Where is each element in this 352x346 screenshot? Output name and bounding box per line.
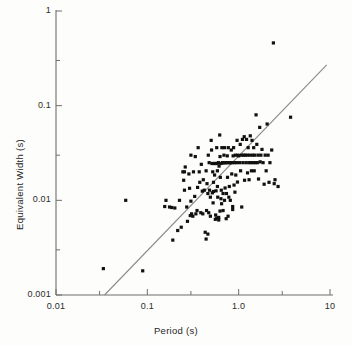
y-tick-label: 0.1: [16, 100, 51, 110]
data-point: [266, 122, 269, 125]
data-point: [215, 146, 218, 149]
data-point: [205, 182, 208, 185]
data-point: [267, 181, 270, 184]
data-point: [229, 199, 232, 202]
data-point: [256, 161, 259, 164]
data-point: [250, 169, 253, 172]
y-axis-title: Equivalent Width (s): [14, 139, 25, 230]
scatter-plot-figure: 0.010.11.01010.10.010.001 Period (s) Equ…: [0, 0, 352, 346]
data-point: [232, 183, 235, 186]
data-point: [270, 148, 273, 151]
data-point: [218, 209, 221, 212]
data-point: [141, 269, 144, 272]
data-point: [210, 139, 213, 142]
data-point: [268, 161, 271, 164]
data-point: [219, 197, 222, 200]
data-point: [201, 212, 204, 215]
data-point: [261, 161, 264, 164]
data-point: [220, 189, 223, 192]
data-point: [184, 165, 187, 168]
data-point: [235, 139, 238, 142]
data-point: [273, 182, 276, 185]
data-point: [246, 171, 249, 174]
data-point: [192, 170, 195, 173]
data-point: [195, 209, 198, 212]
data-point: [171, 239, 174, 242]
data-point: [212, 181, 215, 184]
data-point: [255, 143, 258, 146]
data-point: [202, 178, 205, 181]
data-point: [239, 143, 242, 146]
data-point: [198, 170, 201, 173]
data-point: [194, 155, 197, 158]
data-point: [244, 161, 247, 164]
data-point: [231, 208, 234, 211]
data-point: [265, 169, 268, 172]
data-point: [205, 169, 208, 172]
data-point: [209, 196, 212, 199]
data-point: [272, 41, 275, 44]
data-point: [253, 154, 256, 157]
data-point: [273, 178, 276, 181]
data-point: [223, 186, 226, 189]
data-point: [211, 170, 214, 173]
data-point: [182, 179, 185, 182]
data-point: [208, 189, 211, 192]
data-point: [222, 154, 225, 157]
data-point: [221, 192, 224, 195]
data-point: [208, 161, 211, 164]
x-tick-label: 0.01: [45, 301, 67, 311]
data-point: [258, 126, 261, 129]
data-point: [206, 192, 209, 195]
data-point: [185, 205, 188, 208]
data-point: [191, 215, 194, 218]
data-point: [220, 202, 223, 205]
data-point: [180, 226, 183, 229]
data-point: [176, 229, 179, 232]
data-point: [194, 212, 197, 215]
data-point: [206, 232, 209, 235]
x-tick-label: 0.1: [136, 301, 158, 311]
data-point: [188, 187, 191, 190]
data-point: [217, 216, 220, 219]
data-point: [236, 180, 239, 183]
data-point: [227, 146, 230, 149]
data-point: [260, 148, 263, 151]
data-point: [247, 178, 250, 181]
data-point: [254, 113, 257, 116]
data-point: [170, 206, 173, 209]
x-tick-label: 1.0: [228, 301, 250, 311]
data-point: [240, 205, 243, 208]
data-point: [223, 199, 226, 202]
data-point: [266, 154, 269, 157]
data-point: [207, 154, 210, 157]
data-point: [173, 206, 176, 209]
data-point: [257, 177, 260, 180]
data-point: [183, 189, 186, 192]
data-point: [252, 146, 255, 149]
data-point: [183, 170, 186, 173]
data-point: [200, 163, 203, 166]
data-point: [238, 161, 241, 164]
data-point: [226, 176, 229, 179]
data-point: [219, 176, 222, 179]
data-point: [247, 146, 250, 149]
data-points: [102, 41, 292, 272]
data-point: [226, 215, 229, 218]
data-point: [213, 173, 216, 176]
data-point: [223, 146, 226, 149]
y-tick-label: 0.001: [16, 289, 51, 299]
data-point: [178, 199, 181, 202]
data-point: [249, 134, 252, 137]
data-point: [263, 183, 266, 186]
data-point: [230, 172, 233, 175]
data-point: [196, 186, 199, 189]
data-point: [218, 133, 221, 136]
data-point: [210, 148, 213, 151]
data-point: [250, 139, 253, 142]
data-point: [234, 173, 237, 176]
data-point: [216, 185, 219, 188]
data-point: [216, 169, 219, 172]
data-point: [203, 189, 206, 192]
data-point: [226, 154, 229, 157]
